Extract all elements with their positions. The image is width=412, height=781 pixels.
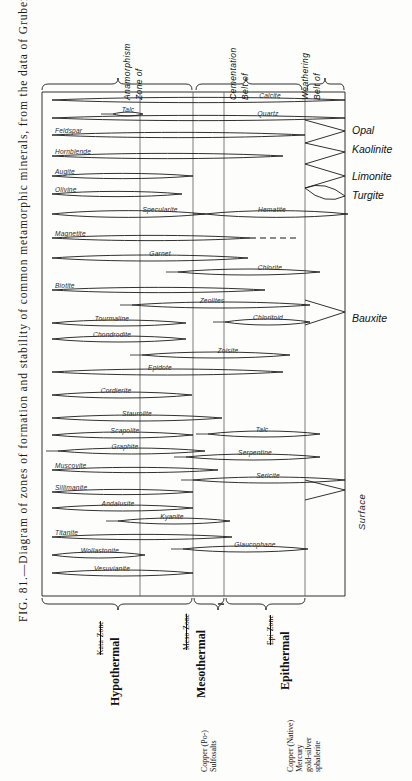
mineral-band: Chondrodite bbox=[52, 331, 186, 342]
band-label: Talc bbox=[122, 106, 135, 113]
band-outline bbox=[52, 115, 345, 120]
band-label: Graphite bbox=[112, 443, 139, 451]
mineral-band: Wollastonite bbox=[52, 547, 145, 558]
diagram-frame bbox=[42, 92, 345, 596]
mineral-band: Staurolite bbox=[52, 410, 222, 421]
band-label: Biotite bbox=[55, 282, 75, 289]
band-label: Serpentine bbox=[238, 449, 272, 457]
mineral-band-group: CalciteQuartzTalcFeldsparHornblendeAugit… bbox=[46, 92, 348, 576]
mineral-band: Vesuvianite bbox=[52, 565, 193, 576]
band-label: Cordierite bbox=[101, 387, 132, 394]
mineral-band: Chlorite bbox=[166, 264, 320, 275]
mineral-band: Graphite bbox=[46, 443, 205, 454]
band-label: Sericite bbox=[256, 472, 280, 479]
bottom-zone-braces bbox=[42, 598, 305, 610]
band-label: Tourmaline bbox=[95, 315, 130, 322]
top-zone-braces bbox=[42, 78, 344, 90]
mineral-band: Titanite bbox=[52, 529, 232, 539]
band-label: Staurolite bbox=[122, 410, 152, 417]
band-label: Chlorite bbox=[258, 264, 282, 271]
mineral-band: Zoisite bbox=[130, 347, 290, 358]
band-label: Olivine bbox=[55, 186, 77, 193]
mineral-band: Talc bbox=[196, 426, 320, 437]
mineral-band: Specularite bbox=[52, 206, 205, 217]
mineral-band: Feldspar bbox=[52, 127, 305, 137]
mineral-band: Augite bbox=[52, 168, 193, 178]
band-outline bbox=[52, 97, 345, 102]
band-outline bbox=[142, 352, 290, 358]
mineral-band: Hornblende bbox=[52, 148, 283, 158]
band-label: Zeolites bbox=[199, 297, 225, 304]
mineral-band: Chloritoid bbox=[213, 314, 310, 325]
figure-container: FIG. 81.—Diagram of zones of formation a… bbox=[0, 0, 412, 781]
band-label: Hematite bbox=[258, 206, 286, 213]
mineral-band: Hematite bbox=[193, 206, 348, 217]
right-label-connectors bbox=[305, 120, 345, 500]
mineral-band: Zeolites bbox=[120, 297, 310, 308]
mineral-band: Cordierite bbox=[52, 387, 192, 398]
band-label: Augite bbox=[54, 168, 75, 176]
band-label: Epidote bbox=[148, 364, 172, 372]
band-label: Quartz bbox=[258, 110, 279, 118]
band-label: Vesuvianite bbox=[94, 565, 130, 572]
mineral-band: Scapolite bbox=[52, 427, 193, 438]
band-outline bbox=[52, 287, 265, 292]
band-label: Calcite bbox=[259, 92, 281, 99]
band-label: Andalusite bbox=[101, 500, 135, 507]
band-label: Feldspar bbox=[55, 127, 83, 135]
band-outline bbox=[178, 269, 320, 275]
band-label: Garnet bbox=[149, 250, 171, 257]
mineral-band: Kyanite bbox=[106, 513, 230, 524]
mineral-band: Glaucophane bbox=[171, 541, 308, 552]
band-label: Magnetite bbox=[55, 230, 86, 238]
mineral-band: Olivine bbox=[52, 186, 182, 196]
band-label: Kyanite bbox=[160, 513, 184, 521]
band-label: Talc bbox=[256, 426, 269, 433]
band-label: Sillimanite bbox=[55, 484, 87, 491]
mineral-band: Tourmaline bbox=[52, 315, 186, 326]
band-label: Specularite bbox=[142, 206, 177, 214]
band-outline bbox=[52, 132, 305, 137]
mineral-band: Biotite bbox=[52, 282, 265, 292]
band-outline bbox=[52, 211, 205, 218]
band-label: Chloritoid bbox=[253, 314, 283, 321]
mineral-band: Talc bbox=[101, 106, 143, 115]
band-label: Zoisite bbox=[217, 347, 239, 354]
mineral-band: Andalusite bbox=[52, 500, 193, 511]
mineral-band: Serpentine bbox=[174, 449, 320, 460]
band-label: Glaucophane bbox=[234, 541, 276, 549]
band-label: Chondrodite bbox=[93, 331, 131, 338]
band-label: Wollastonite bbox=[81, 547, 119, 554]
mineral-band: Calcite bbox=[52, 92, 345, 102]
mineral-band: Epidote bbox=[52, 364, 283, 375]
band-outline bbox=[52, 534, 232, 539]
mineral-band: Sillimanite bbox=[52, 484, 193, 494]
mineral-stability-diagram: CalciteQuartzTalcFeldsparHornblendeAugit… bbox=[0, 0, 412, 781]
band-label: Muscovite bbox=[55, 462, 87, 469]
mineral-band: Magnetite bbox=[52, 230, 300, 240]
band-label: Hornblende bbox=[55, 148, 91, 155]
band-label: Titanite bbox=[55, 529, 78, 536]
mineral-band: Sericite bbox=[181, 472, 345, 483]
mineral-band: Garnet bbox=[52, 250, 248, 261]
mineral-band: Quartz bbox=[52, 110, 345, 120]
band-label: Scapolite bbox=[111, 427, 140, 435]
